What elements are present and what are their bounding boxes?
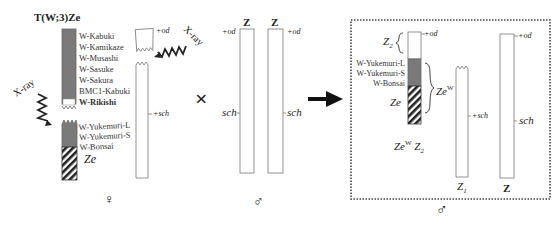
- label-w-kamikaze: W-Kamikaze: [79, 42, 130, 53]
- female-z-chromosome: [135, 28, 154, 178]
- label-w-rikishi: W-Rikishi: [79, 97, 130, 108]
- result-label-w-yukemuri-s: W-Yukemuri-S: [355, 69, 405, 79]
- result-box: [351, 20, 550, 199]
- label-w-sakura: W-Sakura: [79, 75, 130, 86]
- female-translocated-w-chromosome: [62, 29, 76, 109]
- z1-label: Z1: [457, 180, 467, 195]
- xray-left-icon: [38, 94, 52, 126]
- lower-label-list: W-Yukemuri-L W-Yukemuri-S W-Bonsai: [78, 120, 131, 153]
- result-z-od-label: +od: [518, 31, 531, 40]
- male-z-chromosomes: [237, 29, 286, 173]
- male-symbol: ♂: [253, 194, 264, 210]
- translocation-list: W-Kabuki W-Kamikaze W-Musashi W-Sasuke W…: [79, 31, 130, 108]
- result-ze-label: Ze: [390, 96, 401, 108]
- cross-symbol: ×: [195, 86, 208, 112]
- title: T(W;3)Ze: [34, 11, 80, 23]
- result-z-chromosome: [500, 34, 518, 178]
- label-bmc1-kabuki: BMC1-Kabuki: [79, 86, 130, 97]
- result-z1-chromosome: [456, 66, 471, 177]
- result-male-symbol: ♂: [436, 201, 448, 219]
- female-od-label: +od: [156, 26, 169, 35]
- female-symbol: ♀: [104, 192, 115, 208]
- result-z-label: Z: [503, 182, 510, 194]
- result-z1-sch-label: +sch: [472, 111, 488, 120]
- label-w-sasuke: W-Sasuke: [79, 64, 130, 75]
- fem-label: Fem: [63, 100, 72, 105]
- female-sch-label: +sch: [153, 109, 169, 118]
- male-z-label-2: Z: [271, 16, 278, 28]
- genotype-label: ZeW Z2: [394, 139, 424, 155]
- result-od-label: +od: [424, 29, 437, 38]
- xray-right-icon: [154, 46, 186, 58]
- male-sch-label-2: sch: [287, 106, 302, 118]
- female-lower-fragment: [62, 120, 77, 180]
- male-od-label-1: +od: [222, 27, 235, 36]
- z2-label: Z2: [383, 35, 393, 50]
- label-w-musashi: W-Musashi: [79, 53, 130, 64]
- male-z-label-1: Z: [243, 16, 250, 28]
- result-label-list: W-Yukemuri-L W-Yukemuri-S W-Bonsai: [355, 59, 405, 89]
- result-arrow-icon: [308, 91, 343, 107]
- ze-label: Ze: [84, 152, 96, 167]
- result-z-sch-label: sch: [519, 114, 534, 126]
- male-sch-label-1: sch: [222, 106, 237, 118]
- male-od-label-2: +od: [287, 27, 300, 36]
- result-label-w-bonsai: W-Bonsai: [355, 79, 405, 89]
- label-w-kabuki: W-Kabuki: [79, 31, 130, 42]
- zew-label: ZeW: [436, 84, 454, 97]
- result-label-w-yukemuri-l: W-Yukemuri-L: [355, 59, 405, 69]
